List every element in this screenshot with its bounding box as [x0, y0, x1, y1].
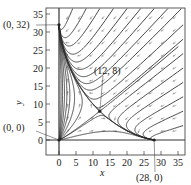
y-axis-title: y — [13, 100, 24, 106]
y-tick-label: 10 — [33, 99, 43, 110]
ticks: 0510152025303505101520253035 — [33, 9, 183, 169]
equilibrium-leader-line — [154, 140, 155, 172]
direction-arrow — [115, 116, 116, 120]
direction-field — [66, 16, 177, 133]
direction-arrow — [79, 104, 80, 108]
x-tick-label: 0 — [57, 157, 62, 168]
equilibrium-label: (0, 0) — [3, 122, 25, 134]
x-tick-label: 5 — [74, 157, 79, 168]
equilibrium-label: (0, 32) — [3, 19, 30, 31]
y-tick-label: 5 — [38, 117, 43, 128]
x-tick-label: 35 — [173, 157, 183, 168]
y-tick-label: 30 — [33, 27, 43, 38]
y-tick-label: 15 — [33, 81, 43, 92]
x-tick-label: 25 — [139, 157, 149, 168]
x-axis-title: x — [99, 167, 105, 178]
x-tick-label: 30 — [156, 157, 166, 168]
trajectory — [151, 126, 183, 140]
equilibrium-label: (28, 0) — [136, 172, 163, 184]
trajectory — [59, 9, 86, 38]
y-tick-label: 0 — [38, 135, 43, 146]
direction-arrow — [138, 129, 139, 133]
trajectories — [59, 9, 183, 140]
y-tick-label: 35 — [33, 9, 43, 20]
trajectory — [143, 111, 183, 140]
x-tick-label: 10 — [88, 157, 98, 168]
y-tick-label: 25 — [33, 45, 43, 56]
y-tick-label: 20 — [33, 63, 43, 74]
trajectory — [100, 111, 155, 140]
phase-portrait-chart: 0510152025303505101520253035 (0, 0)(0, 3… — [0, 0, 191, 185]
trajectory — [59, 25, 183, 108]
x-tick-label: 20 — [122, 157, 132, 168]
trajectory — [59, 9, 113, 55]
equilibrium-label: (12, 8) — [94, 65, 121, 77]
trajectory — [59, 9, 73, 30]
trajectory — [59, 9, 100, 47]
x-tick-label: 15 — [105, 157, 115, 168]
